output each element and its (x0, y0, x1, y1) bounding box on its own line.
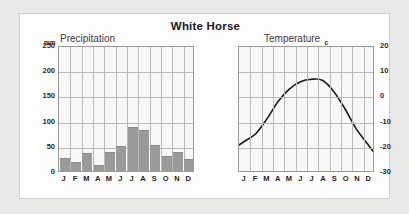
gridline-vertical (93, 47, 94, 171)
precipitation-bar (139, 130, 149, 171)
precipitation-bar (105, 152, 115, 171)
month-label: S (329, 174, 340, 183)
y-axis-tick-label: -20 (380, 143, 402, 151)
y-axis-tick-label: -10 (380, 118, 402, 126)
gridline-horizontal (59, 97, 193, 98)
gridline-vertical (341, 47, 342, 171)
month-label: J (126, 174, 137, 183)
month-label: O (340, 174, 351, 183)
temperature-unit-label: c (325, 39, 329, 46)
gridline-vertical (307, 47, 308, 171)
month-label: S (149, 174, 160, 183)
y-axis-tick-label: 0 (34, 168, 55, 176)
gridline-vertical (184, 47, 185, 171)
precipitation-bar (94, 165, 104, 171)
month-label: J (306, 174, 317, 183)
gridline-horizontal (239, 97, 373, 98)
month-label: A (317, 174, 328, 183)
gridline-vertical (318, 47, 319, 171)
precipitation-plot-area (58, 46, 194, 172)
precipitation-header: mm Precipitation (44, 28, 115, 42)
month-label: A (137, 174, 148, 183)
month-label: J (295, 174, 306, 183)
temperature-plot-area (238, 46, 374, 172)
precipitation-bar (71, 162, 81, 171)
y-axis-tick-label: 250 (34, 42, 55, 50)
gridline-vertical (364, 47, 365, 171)
month-label: N (171, 174, 182, 183)
y-axis-tick-label: 10 (380, 67, 402, 75)
gridline-horizontal (239, 72, 373, 73)
month-label: O (160, 174, 171, 183)
precipitation-bar (60, 158, 70, 171)
precipitation-bar (150, 145, 160, 171)
month-label: M (261, 174, 272, 183)
precipitation-bar (128, 127, 138, 171)
y-axis-tick-label: 20 (380, 42, 402, 50)
precipitation-bar (82, 153, 92, 171)
month-label: M (81, 174, 92, 183)
precipitation-axis-name: Precipitation (60, 33, 115, 44)
precipitation-y-axis: 050100150200250 (32, 46, 55, 172)
month-label: M (103, 174, 114, 183)
y-axis-tick-label: 50 (34, 143, 55, 151)
month-label: A (92, 174, 103, 183)
precipitation-bar (173, 152, 183, 171)
temperature-axis-name: Temperature (264, 33, 320, 44)
month-label: J (115, 174, 126, 183)
gridline-vertical (284, 47, 285, 171)
precipitation-bar (184, 159, 194, 171)
month-label: D (183, 174, 194, 183)
month-label: N (351, 174, 362, 183)
y-axis-tick-label: -30 (380, 168, 402, 176)
gridline-vertical (296, 47, 297, 171)
y-axis-tick-label: 200 (34, 67, 55, 75)
gridline-horizontal (239, 123, 373, 124)
precipitation-bar (116, 146, 126, 171)
temperature-month-labels: JFMAMJJASOND (238, 174, 374, 186)
precipitation-month-labels: JFMAMJJASOND (58, 174, 194, 186)
month-label: F (69, 174, 80, 183)
temperature-header: Temperature c (264, 28, 328, 42)
gridline-vertical (250, 47, 251, 171)
gridline-vertical (352, 47, 353, 171)
y-axis-tick-label: 150 (34, 92, 55, 100)
gridline-vertical (330, 47, 331, 171)
gridline-vertical (273, 47, 274, 171)
y-axis-tick-label: 100 (34, 118, 55, 126)
month-label: D (363, 174, 374, 183)
month-label: J (238, 174, 249, 183)
temperature-y-axis: -30-20-1001020 (376, 46, 402, 172)
gridline-horizontal (59, 123, 193, 124)
gridline-horizontal (239, 148, 373, 149)
climate-chart-card: White Horse mm Precipitation 05010015020… (19, 13, 390, 199)
gridline-vertical (262, 47, 263, 171)
month-label: J (58, 174, 69, 183)
gridline-vertical (70, 47, 71, 171)
month-label: A (272, 174, 283, 183)
y-axis-tick-label: 0 (380, 92, 402, 100)
gridline-vertical (161, 47, 162, 171)
month-label: M (283, 174, 294, 183)
month-label: F (249, 174, 260, 183)
precipitation-bar (162, 156, 172, 171)
gridline-horizontal (59, 72, 193, 73)
